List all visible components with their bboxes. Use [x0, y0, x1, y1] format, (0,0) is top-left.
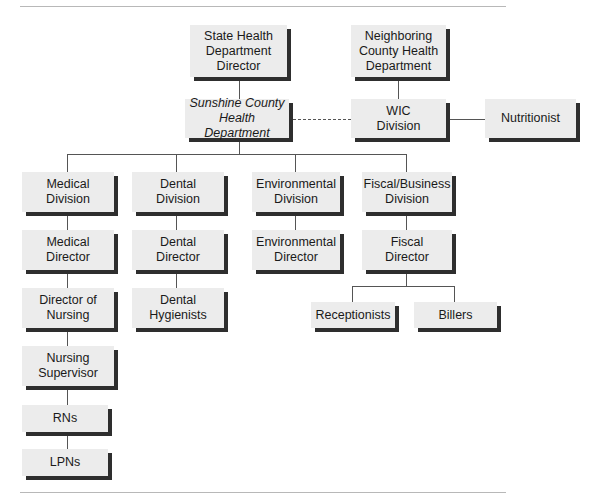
- node-dental-hygienists: Dental Hygienists: [132, 288, 224, 328]
- node-receptionists: Receptionists: [311, 302, 395, 328]
- node-director-of-nursing: Director of Nursing: [22, 288, 114, 328]
- connector-supervisor-rns: [67, 390, 68, 405]
- node-fiscal-division: Fiscal/Business Division: [362, 172, 452, 212]
- connector-dental-div-dir: [176, 216, 177, 230]
- node-environmental-division: Environmental Division: [252, 172, 340, 212]
- connector-rns-lpns: [67, 436, 68, 449]
- node-sunshine-county: Sunshine County Health Department: [185, 99, 289, 138]
- node-lpns: LPNs: [22, 449, 108, 476]
- node-neighboring-county: Neighboring County Health Department: [351, 25, 446, 77]
- connector-to-billers: [454, 286, 455, 302]
- connector-env-div-dir: [295, 216, 296, 230]
- connector-fiscaldir-trunk: [406, 274, 407, 286]
- node-dental-director: Dental Director: [132, 230, 224, 270]
- node-dental-division: Dental Division: [132, 172, 224, 212]
- node-medical-division: Medical Division: [22, 172, 114, 212]
- node-rns: RNs: [22, 405, 108, 432]
- connector-to-receptionists: [352, 286, 353, 302]
- connector-meddir-don: [67, 274, 68, 288]
- connector-to-environmental-division: [295, 154, 296, 172]
- connector-sunshine-wic-dashed: [293, 119, 351, 120]
- connector-sunshine-trunk: [239, 142, 240, 154]
- node-environmental-director: Environmental Director: [252, 230, 340, 270]
- top-rule: [20, 6, 506, 7]
- node-fiscal-director: Fiscal Director: [362, 230, 452, 270]
- connector-fiscal-staff-branch: [352, 286, 454, 287]
- node-billers: Billers: [414, 302, 497, 328]
- node-state-health-director: State Health Department Director: [190, 25, 287, 77]
- connector-wic-nutritionist: [450, 119, 485, 120]
- connector-to-medical-division: [67, 154, 68, 172]
- node-nutritionist: Nutritionist: [485, 99, 576, 138]
- node-medical-director: Medical Director: [22, 230, 114, 270]
- connector-to-fiscal-division: [406, 154, 407, 172]
- connector-medical-div-dir: [67, 216, 68, 230]
- connector-dentdir-hyg: [176, 274, 177, 288]
- connector-don-supervisor: [67, 332, 68, 346]
- connector-neighboring-wic: [398, 81, 399, 99]
- connector-fiscal-div-dir: [406, 216, 407, 230]
- connector-to-dental-division: [176, 154, 177, 172]
- node-nursing-supervisor: Nursing Supervisor: [22, 346, 114, 386]
- connector-division-branch: [67, 154, 407, 155]
- node-wic-division: WIC Division: [351, 99, 446, 138]
- bottom-rule: [20, 492, 506, 493]
